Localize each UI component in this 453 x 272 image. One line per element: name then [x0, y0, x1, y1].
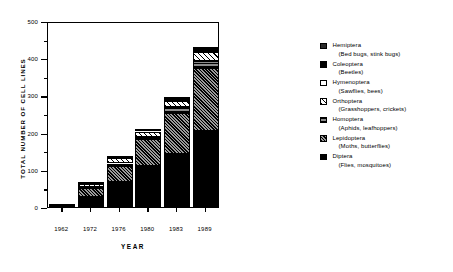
x-tick — [176, 208, 177, 212]
plot-area — [47, 22, 219, 208]
bar-segment-1972-diptera — [78, 197, 104, 207]
bar-1989 — [193, 49, 219, 207]
legend-label-common-name: (Moths, butterflies) — [339, 142, 451, 150]
bar-segment-1980-lepidoptera — [135, 139, 161, 166]
legend-label-common-name: (Flies, mosquitoes) — [339, 161, 451, 169]
bar-segment-1983-homoptera — [164, 107, 190, 112]
bar-segment-1983-orthoptera — [164, 101, 190, 108]
legend-label-order: Diptera — [333, 153, 353, 161]
x-tick — [119, 208, 120, 212]
legend-item-hymenoptera: Hymenoptera(Sawflies, bees) — [320, 79, 450, 95]
legend-label-common-name: (Grasshoppers, crickets) — [339, 105, 451, 113]
legend-item-hemiptera: Hemiptera(Bed bugs, stink bugs) — [320, 42, 450, 58]
y-tick-label: 200 — [8, 130, 38, 136]
legend-item-orthoptera: Orthoptera(Grasshoppers, crickets) — [320, 98, 450, 114]
bar-segment-1976-lepidoptera — [107, 166, 133, 182]
y-tick-label: 400 — [8, 56, 38, 62]
legend-swatch-hymenoptera — [320, 80, 327, 87]
bar-segment-1983-hemiptera — [164, 97, 190, 99]
y-tick-major — [41, 208, 47, 209]
legend-item-coleoptera: Coleoptera(Beetles) — [320, 61, 450, 77]
bar-segment-1976-homoptera — [107, 164, 133, 167]
chart-legend: Hemiptera(Bed bugs, stink bugs)Coleopter… — [320, 42, 450, 172]
bar-segment-1980-orthoptera — [135, 132, 161, 137]
legend-label-order: Hymenoptera — [333, 79, 370, 87]
bar-segment-1989-homoptera — [193, 61, 219, 68]
y-tick-label: 100 — [8, 167, 38, 173]
bar-segment-1972-hymenoptera — [78, 182, 104, 184]
legend-label-order: Orthoptera — [333, 98, 363, 106]
x-tick — [147, 208, 148, 212]
bar-1972 — [78, 184, 104, 207]
stacked-bar-chart: TOTAL NUMBER OF CELL LINES 0100200300400… — [0, 0, 453, 272]
y-tick-label: 500 — [8, 19, 38, 25]
bar-1980 — [135, 131, 161, 207]
legend-swatch-lepidoptera — [320, 135, 327, 142]
bar-segment-1976-orthoptera — [107, 158, 133, 164]
legend-label-common-name: (Sawflies, bees) — [339, 87, 451, 95]
legend-swatch-orthoptera — [320, 98, 327, 105]
bar-segment-1989-hemiptera — [193, 47, 219, 49]
legend-swatch-diptera — [320, 154, 327, 161]
bar-segment-1980-diptera — [135, 166, 161, 207]
x-axis-title: YEAR — [47, 243, 219, 250]
legend-swatch-hemiptera — [320, 43, 327, 50]
bar-segment-1980-homoptera — [135, 137, 161, 140]
bar-segment-1989-lepidoptera — [193, 68, 219, 130]
bar-segment-1976-diptera — [107, 182, 133, 207]
bar-segment-1989-diptera — [193, 131, 219, 207]
legend-item-diptera: Diptera(Flies, mosquitoes) — [320, 153, 450, 169]
bar-segment-1983-diptera — [164, 154, 190, 207]
legend-swatch-homoptera — [320, 117, 327, 124]
bar-1976 — [107, 157, 133, 207]
bar-segment-1972-orthoptera — [78, 184, 104, 187]
legend-label-order: Hemiptera — [333, 42, 362, 50]
x-tick — [90, 208, 91, 212]
legend-item-lepidoptera: Lepidoptera(Moths, butterflies) — [320, 135, 450, 151]
legend-swatch-coleoptera — [320, 61, 327, 68]
y-axis-title: TOTAL NUMBER OF CELL LINES — [19, 39, 26, 199]
legend-label-common-name: (Beetles) — [339, 68, 451, 76]
bar-segment-1989-orthoptera — [193, 52, 219, 62]
y-tick-label: 0 — [8, 205, 38, 211]
legend-label-common-name: (Bed bugs, stink bugs) — [339, 50, 451, 58]
legend-label-common-name: (Aphids, leafhoppers) — [339, 124, 451, 132]
legend-label-order: Homoptera — [333, 116, 364, 124]
x-tick-label-1989: 1989 — [185, 226, 225, 232]
legend-label-order: Lepidoptera — [333, 135, 366, 143]
bar-segment-1976-hymenoptera — [107, 156, 133, 158]
y-tick-label: 300 — [8, 93, 38, 99]
bar-segment-1983-lepidoptera — [164, 113, 190, 155]
x-tick — [205, 208, 206, 212]
x-tick — [61, 208, 62, 212]
bar-1983 — [164, 99, 190, 207]
bar-segment-1972-lepidoptera — [78, 188, 104, 196]
legend-item-homoptera: Homoptera(Aphids, leafhoppers) — [320, 116, 450, 132]
bar-1962 — [49, 205, 75, 207]
bar-segment-1962-lepidoptera — [49, 204, 75, 206]
legend-label-order: Coleoptera — [333, 61, 363, 69]
bar-segment-1980-hymenoptera — [135, 129, 161, 131]
